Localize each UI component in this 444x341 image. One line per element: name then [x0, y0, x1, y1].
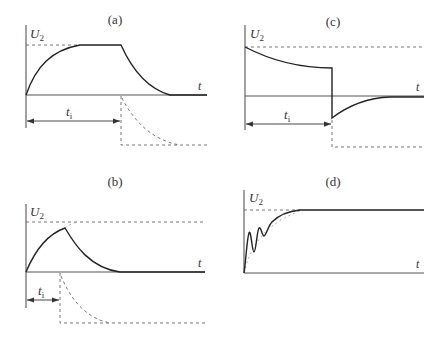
x-axis-label: t [416, 257, 420, 271]
panel-title: (d) [325, 174, 340, 189]
input-step [332, 120, 424, 147]
y-axis-label: U2 [30, 204, 44, 221]
input-decay [61, 276, 110, 323]
smooth-response [244, 211, 300, 273]
interval-label: ti [38, 283, 45, 300]
interval-label: ti [284, 107, 291, 124]
output-curve [244, 210, 424, 273]
panel-c: (c) U2 t ti [245, 14, 424, 147]
panel-b: (b) U2 t ti [26, 174, 205, 323]
panel-a: (a) U2 t ti [26, 12, 207, 145]
x-axis-label: t [416, 80, 420, 94]
continued-rise [65, 222, 78, 228]
input-decay [122, 98, 180, 145]
input-step [121, 96, 207, 145]
panel-title: (a) [108, 12, 122, 27]
panel-title: (b) [107, 174, 122, 189]
output-curve [26, 228, 205, 272]
input-step [60, 273, 205, 323]
x-axis-label: t [198, 79, 202, 93]
figure-canvas: (a) U2 t ti (c) U2 t ti (b) U2 t [0, 0, 444, 341]
interval-label: ti [66, 104, 73, 121]
y-axis-label: U2 [249, 190, 263, 207]
output-curve [26, 45, 207, 95]
panel-d: (d) U2 t [244, 174, 424, 273]
output-curve [245, 47, 424, 118]
x-axis-label: t [198, 256, 202, 270]
panel-title: (c) [326, 14, 340, 29]
y-axis-label: U2 [250, 26, 264, 43]
y-axis-label: U2 [30, 26, 44, 43]
